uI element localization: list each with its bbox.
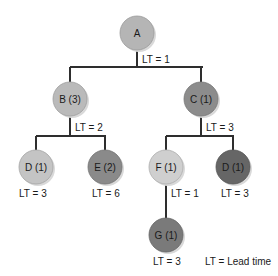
node-a: A LT = 1 [120,16,170,65]
lead-time-label: LT = 2 [75,122,103,133]
lead-time-label: LT = 1 [171,188,199,199]
lead-time-label: LT = 3 [221,188,249,199]
node-d-left: D (1) LT = 3 [19,150,55,199]
node-c: C (1) LT = 3 [184,82,234,133]
lead-time-label: LT = 6 [92,188,120,199]
node-label: E (2) [94,162,116,173]
node-e: E (2) LT = 6 [88,150,124,199]
lead-time-label: LT = 3 [19,188,47,199]
node-label: D (1) [25,162,47,173]
lead-time-label: LT = 1 [142,54,170,65]
node-label: D (1) [222,162,244,173]
node-d-right: D (1) LT = 3 [216,150,252,199]
lead-time-label: LT = 3 [153,256,181,267]
tree-edges [36,50,234,218]
node-f: F (1) LT = 1 [149,150,199,199]
edge-a-to-bc [70,50,203,82]
product-structure-tree: A LT = 1 B (3) LT = 2 C (1) LT = 3 D (1)… [0,0,278,276]
node-b: B (3) LT = 2 [53,82,103,133]
lead-time-label: LT = 3 [206,122,234,133]
node-label: A [134,28,141,39]
node-label: G (1) [155,230,178,241]
node-label: B (3) [59,94,81,105]
node-g: G (1) LT = 3 [149,218,185,267]
node-label: C (1) [190,94,212,105]
legend-text: LT = Lead time [205,256,271,267]
node-label: F (1) [155,162,176,173]
